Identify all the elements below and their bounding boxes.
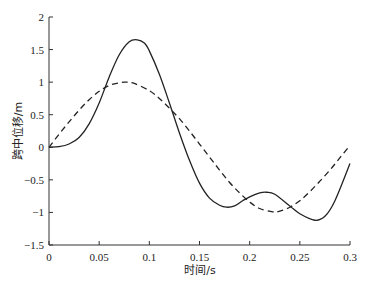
y-axis-label: 跨中位移/m xyxy=(11,102,25,160)
x-tick-label: 0.15 xyxy=(190,251,210,263)
y-tick-label: 0 xyxy=(39,141,45,153)
x-tick-label: 0.05 xyxy=(90,251,110,263)
y-tick-label: 0.5 xyxy=(30,109,44,121)
x-tick-label: 0.25 xyxy=(290,251,310,263)
y-tick-label: 1.5 xyxy=(30,44,44,56)
x-tick-label: 0.2 xyxy=(243,251,257,263)
x-axis-label: 时间/s xyxy=(184,264,216,277)
x-tick-label: 0.3 xyxy=(343,251,357,263)
series-dashed-line xyxy=(49,82,350,212)
y-tick-label: −0.5 xyxy=(24,174,44,186)
line-chart: 00.050.10.150.20.250.3−1.5−1−0.500.511.5… xyxy=(0,0,366,290)
y-tick-label: −1 xyxy=(32,206,44,218)
axes: 00.050.10.150.20.250.3−1.5−1−0.500.511.5… xyxy=(24,11,357,263)
series-solid-line xyxy=(49,40,350,221)
y-tick-label: −1.5 xyxy=(24,239,44,251)
x-tick-label: 0.1 xyxy=(142,251,156,263)
data-series xyxy=(49,40,350,221)
y-tick-label: 2 xyxy=(39,11,45,23)
y-tick-label: 1 xyxy=(39,76,45,88)
x-tick-label: 0 xyxy=(46,251,52,263)
